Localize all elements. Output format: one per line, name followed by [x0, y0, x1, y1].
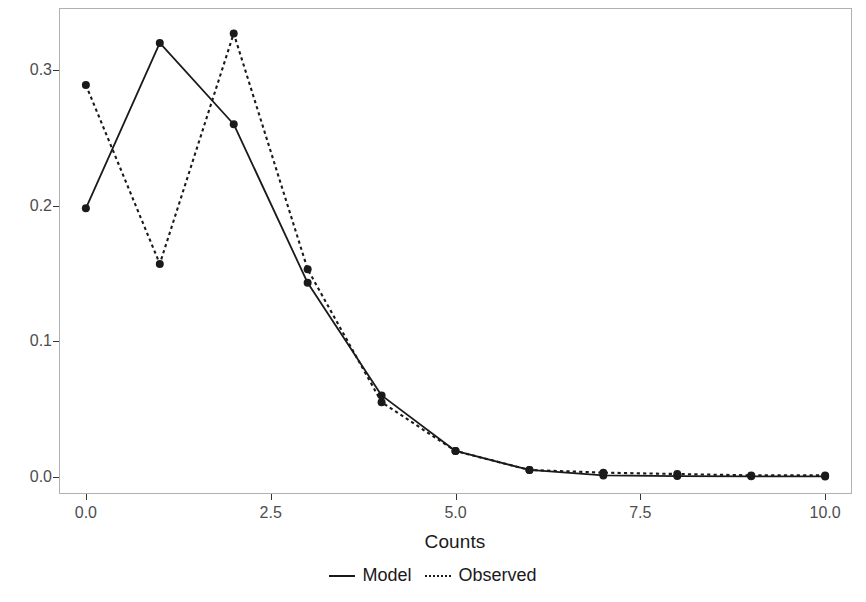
x-axis-tick-mark [271, 494, 272, 500]
data-point-marker [304, 279, 312, 287]
y-axis-tick-mark [53, 206, 59, 207]
x-axis-tick-label: 2.5 [241, 505, 301, 521]
data-point-marker [378, 398, 386, 406]
legend-entry-observed: Observed [425, 565, 536, 586]
x-axis-tick-mark [86, 494, 87, 500]
chart-figure: Predicted Probability 0.00.10.20.3 0.02.… [0, 0, 866, 602]
x-axis-ticks: 0.02.55.07.510.0 [0, 505, 866, 527]
chart-legend: ModelObserved [0, 565, 866, 586]
x-axis-tick-label: 10.0 [795, 505, 855, 521]
data-point-marker [747, 471, 755, 479]
legend-label: Observed [458, 565, 536, 586]
y-axis-tick-mark [53, 477, 59, 478]
data-point-marker [821, 471, 829, 479]
data-point-marker [82, 81, 90, 89]
data-point-marker [525, 466, 533, 474]
data-point-marker [156, 39, 164, 47]
series-line [86, 33, 825, 475]
y-axis-tick-mark [53, 70, 59, 71]
data-point-marker [452, 447, 460, 455]
data-point-marker [156, 260, 164, 268]
data-point-marker [230, 29, 238, 37]
data-point-marker [673, 470, 681, 478]
y-axis-tick-label: 0.2 [8, 198, 52, 214]
x-axis-tick-mark [456, 494, 457, 500]
dotted-line-key-icon [425, 570, 451, 582]
y-axis-tick-label: 0.1 [8, 333, 52, 349]
legend-line-sample [329, 575, 355, 577]
legend-entry-model: Model [329, 565, 411, 586]
x-axis-tick-label: 5.0 [426, 505, 486, 521]
data-point-marker [82, 204, 90, 212]
x-axis-tick-label: 7.5 [610, 505, 670, 521]
x-axis-title: Counts [60, 531, 850, 553]
series-observed [82, 29, 829, 479]
x-axis-tick-label: 0.0 [56, 505, 116, 521]
data-point-marker [230, 120, 238, 128]
y-axis-tick-mark [53, 341, 59, 342]
solid-line-key-icon [329, 570, 355, 582]
data-point-marker [599, 469, 607, 477]
y-axis-tick-label: 0.0 [8, 469, 52, 485]
data-point-marker [304, 265, 312, 273]
series-model [82, 39, 829, 481]
plot-area [60, 9, 851, 493]
series-line [86, 43, 825, 477]
legend-label: Model [362, 565, 411, 586]
legend-line-sample [425, 575, 451, 577]
plot-panel [59, 8, 852, 494]
x-axis-tick-mark [825, 494, 826, 500]
x-axis-tick-mark [640, 494, 641, 500]
y-axis-tick-label: 0.3 [8, 62, 52, 78]
